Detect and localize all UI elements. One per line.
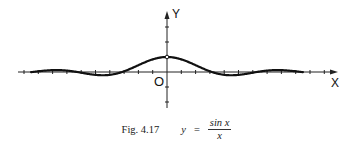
y-axis-arrow-icon (165, 11, 170, 19)
fraction-numerator: sin x (208, 117, 232, 130)
open-circle-point (165, 55, 169, 59)
equation-equals: = (194, 124, 200, 135)
equation-lhs: y (181, 124, 186, 135)
fraction-denominator: x (217, 130, 222, 142)
x-axis-label: X (331, 76, 339, 90)
figure-caption: Fig. 4.17 y = sin x x (0, 117, 353, 142)
x-axis-arrow-icon (330, 70, 338, 75)
y-axis-label: Y (172, 7, 180, 21)
figure-number: Fig. 4.17 (122, 124, 160, 135)
equation-fraction: sin x x (208, 117, 232, 142)
origin-label: O (154, 74, 164, 89)
